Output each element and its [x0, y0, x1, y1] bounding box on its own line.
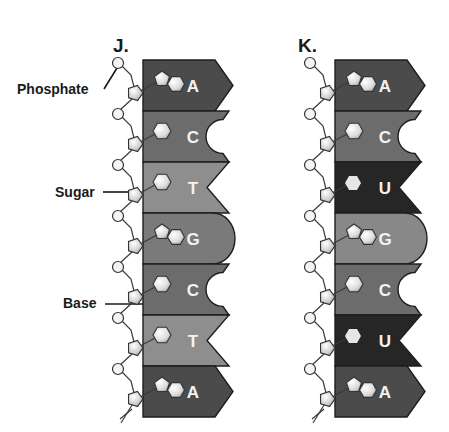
backbone-bond [314, 270, 326, 291]
purine-ring-icon [168, 383, 185, 398]
base-letter: T [188, 332, 199, 351]
purine-ring-icon [168, 230, 185, 245]
base-letter: A [379, 383, 391, 402]
backbone-bond [314, 372, 326, 393]
sugar-pentagon-icon [129, 340, 144, 355]
base-letter: C [187, 128, 199, 147]
phosphate-icon [305, 58, 316, 69]
dna-strand-j: ACTGCTA [113, 58, 236, 424]
base-letter: G [186, 230, 199, 249]
nucleotide-a: A [305, 364, 426, 424]
sugar-pentagon-icon [129, 187, 144, 202]
phosphate-icon [113, 109, 124, 120]
panel-title-k: K. [298, 35, 317, 56]
panel-title-j: J. [113, 35, 129, 56]
nucleotide-u: U [305, 160, 422, 214]
backbone-bond [122, 117, 134, 138]
label-sugar: Sugar [55, 184, 95, 200]
sugar-pentagon-icon [321, 187, 336, 202]
sugar-pentagon-icon [321, 289, 336, 304]
base-letter: A [187, 77, 199, 96]
backbone-bond [314, 117, 326, 138]
label-phosphate: Phosphate [17, 81, 89, 97]
phosphate-icon [305, 313, 316, 324]
base-letter: U [379, 332, 391, 351]
phosphate-icon [305, 262, 316, 273]
nucleotide-a: A [113, 58, 234, 112]
backbone-bond [312, 303, 324, 314]
sugar-pentagon-icon [321, 85, 336, 100]
base-letter: G [378, 230, 391, 249]
backbone-bond [120, 150, 132, 161]
phosphate-icon [113, 313, 124, 324]
backbone-bond [312, 150, 324, 161]
nucleotide-g: G [305, 211, 428, 265]
backbone-bond [120, 354, 132, 365]
backbone-bond [120, 99, 132, 110]
backbone-bond [120, 201, 132, 212]
pyrimidine-ring-icon [153, 276, 171, 292]
sugar-pentagon-icon [129, 85, 144, 100]
base-letter: C [379, 128, 391, 147]
sugar-pentagon-icon [129, 289, 144, 304]
backbone-bond [314, 219, 326, 240]
purine-ring-icon [360, 77, 377, 92]
sugar-pentagon-icon [129, 391, 144, 406]
pyrimidine-ring-icon [345, 123, 363, 139]
backbone-bond [122, 219, 134, 240]
phosphate-icon [305, 160, 316, 171]
backbone-bond [312, 201, 324, 212]
nucleotide-g: G [113, 211, 236, 265]
base-letter: C [187, 281, 199, 300]
pyrimidine-ring-icon [345, 276, 363, 292]
sugar-pentagon-icon [129, 136, 144, 151]
backbone-bond [312, 99, 324, 110]
base-letter: U [379, 179, 391, 198]
backbone-bond [120, 252, 132, 263]
phosphate-icon [113, 211, 124, 222]
backbone-bond [314, 321, 326, 342]
label-base: Base [63, 295, 97, 311]
pyrimidine-ring-icon [153, 123, 171, 139]
nucleotide-c: C [113, 109, 230, 163]
sugar-pentagon-icon [321, 391, 336, 406]
sugar-pentagon-icon [321, 136, 336, 151]
rna-strand-k: ACUGCUA [305, 58, 428, 424]
base-letter: C [379, 281, 391, 300]
purine-ring-icon [360, 383, 377, 398]
phosphate-icon [113, 262, 124, 273]
sugar-pentagon-icon [321, 238, 336, 253]
backbone-tail [312, 409, 324, 419]
nucleotide-strand-diagram: J. K. Phosphate Sugar Base ACTGCTA ACUGC… [0, 0, 449, 432]
backbone-bond [312, 252, 324, 263]
purine-ring-icon [360, 230, 377, 245]
nucleotide-u: U [305, 313, 422, 367]
base-letter: T [188, 179, 199, 198]
backbone-bond [122, 270, 134, 291]
nucleotide-c: C [305, 109, 422, 163]
nucleotide-t: T [113, 313, 230, 367]
backbone-bond [122, 66, 134, 87]
nucleotide-c: C [113, 262, 230, 316]
sugar-pentagon-icon [321, 340, 336, 355]
purine-ring-icon [168, 77, 185, 92]
nucleotide-t: T [113, 160, 230, 214]
backbone-tail [120, 409, 132, 419]
phosphate-leader-line [104, 68, 117, 89]
phosphate-icon [305, 211, 316, 222]
phosphate-icon [113, 58, 124, 69]
phosphate-icon [113, 160, 124, 171]
phosphate-icon [113, 364, 124, 375]
pyrimidine-ring-icon [153, 327, 171, 343]
base-letter: A [187, 383, 199, 402]
nucleotide-a: A [113, 364, 234, 424]
nucleotide-c: C [305, 262, 422, 316]
backbone-bond [312, 354, 324, 365]
backbone-bond [122, 168, 134, 189]
pyrimidine-ring-icon [153, 174, 171, 190]
sugar-pentagon-icon [129, 238, 144, 253]
phosphate-icon [305, 109, 316, 120]
phosphate-icon [305, 364, 316, 375]
backbone-bond [122, 372, 134, 393]
base-letter: A [379, 77, 391, 96]
